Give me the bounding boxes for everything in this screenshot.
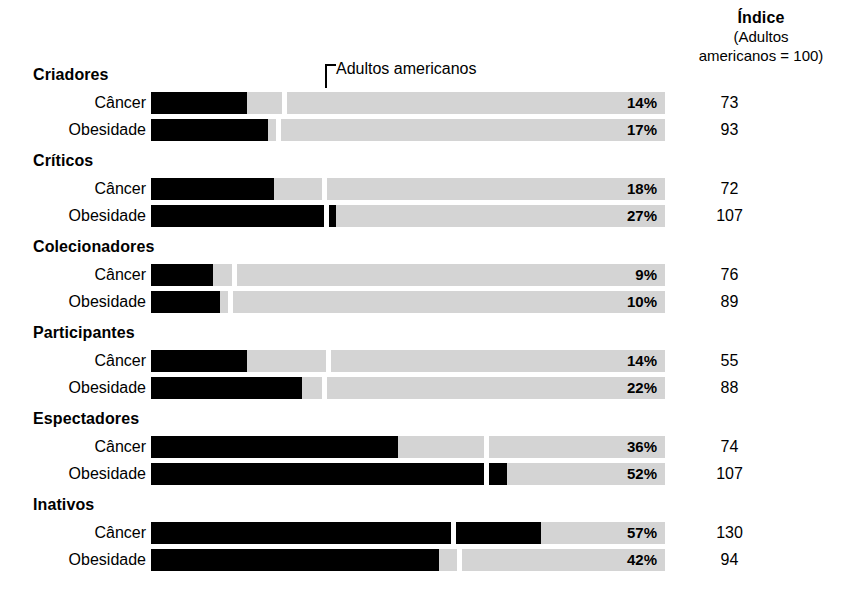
row-label: Obesidade — [0, 377, 146, 399]
percent-label: 17% — [627, 119, 657, 141]
index-value: 107 — [672, 205, 787, 227]
index-value: 74 — [672, 436, 787, 458]
group-heading: Espectadores — [33, 410, 139, 428]
chart-row: Obesidade22%88 — [0, 377, 850, 399]
bar-fill — [151, 377, 302, 399]
bar-track: 22% — [151, 377, 665, 399]
bar-fill — [151, 264, 213, 286]
reference-gap — [484, 436, 489, 458]
row-label: Câncer — [0, 436, 146, 458]
reference-gap — [282, 92, 287, 114]
bar-fill — [151, 119, 268, 141]
index-value: 55 — [672, 350, 787, 372]
bar-fill — [151, 549, 439, 571]
bar-track: 52% — [151, 463, 665, 485]
group-heading: Criadores — [33, 66, 109, 84]
bar-track: 17% — [151, 119, 665, 141]
bar-track: 42% — [151, 549, 665, 571]
percent-label: 57% — [627, 522, 657, 544]
chart-row: Câncer18%72 — [0, 178, 850, 200]
row-label: Obesidade — [0, 463, 146, 485]
percent-label: 36% — [627, 436, 657, 458]
bar-fill — [151, 350, 247, 372]
bar-fill — [151, 205, 336, 227]
bar-track: 36% — [151, 436, 665, 458]
bar-track: 14% — [151, 350, 665, 372]
row-label: Obesidade — [0, 119, 146, 141]
chart-row: Obesidade17%93 — [0, 119, 850, 141]
group-heading: Inativos — [33, 496, 94, 514]
bar-fill — [151, 522, 541, 544]
index-value: 94 — [672, 549, 787, 571]
index-value: 88 — [672, 377, 787, 399]
group-heading: Críticos — [33, 152, 93, 170]
reference-bracket-icon — [325, 64, 336, 88]
index-value: 89 — [672, 291, 787, 313]
reference-gap — [484, 463, 489, 485]
group-heading: Participantes — [33, 324, 135, 342]
chart-row: Obesidade10%89 — [0, 291, 850, 313]
reference-gap — [326, 350, 331, 372]
chart-row: Obesidade52%107 — [0, 463, 850, 485]
chart-row: Câncer14%73 — [0, 92, 850, 114]
chart-row: Obesidade42%94 — [0, 549, 850, 571]
reference-gap — [324, 205, 329, 227]
bar-track: 10% — [151, 291, 665, 313]
percent-label: 27% — [627, 205, 657, 227]
chart-row: Câncer9%76 — [0, 264, 850, 286]
reference-gap — [457, 549, 462, 571]
bar-track: 18% — [151, 178, 665, 200]
reference-marker-label: Adultos americanos — [336, 60, 477, 78]
reference-gap — [276, 119, 281, 141]
reference-gap — [228, 291, 233, 313]
percent-label: 18% — [627, 178, 657, 200]
bar-track: 27% — [151, 205, 665, 227]
percent-label: 52% — [627, 463, 657, 485]
reference-gap — [451, 522, 456, 544]
row-label: Câncer — [0, 264, 146, 286]
row-label: Obesidade — [0, 549, 146, 571]
chart-row: Obesidade27%107 — [0, 205, 850, 227]
bar-fill — [151, 291, 220, 313]
index-column-header: Índice (Adultos americanos = 100) — [672, 8, 850, 65]
percent-label: 14% — [627, 92, 657, 114]
index-value: 76 — [672, 264, 787, 286]
index-bar-chart: Índice (Adultos americanos = 100) Adulto… — [0, 0, 850, 594]
row-label: Obesidade — [0, 205, 146, 227]
row-label: Câncer — [0, 92, 146, 114]
bar-fill — [151, 463, 507, 485]
percent-label: 14% — [627, 350, 657, 372]
bar-fill — [151, 178, 274, 200]
percent-label: 42% — [627, 549, 657, 571]
percent-label: 9% — [635, 264, 657, 286]
chart-row: Câncer57%130 — [0, 522, 850, 544]
index-header-title: Índice — [672, 8, 850, 27]
reference-gap — [232, 264, 237, 286]
percent-label: 10% — [627, 291, 657, 313]
index-value: 73 — [672, 92, 787, 114]
group-heading: Colecionadores — [33, 238, 154, 256]
bar-track: 57% — [151, 522, 665, 544]
index-header-subtitle-line2: americanos = 100) — [672, 46, 850, 65]
row-label: Câncer — [0, 178, 146, 200]
index-header-subtitle-line1: (Adultos — [672, 27, 850, 46]
index-value: 107 — [672, 463, 787, 485]
percent-label: 22% — [627, 377, 657, 399]
row-label: Câncer — [0, 350, 146, 372]
reference-gap — [322, 178, 327, 200]
index-value: 72 — [672, 178, 787, 200]
chart-row: Câncer14%55 — [0, 350, 850, 372]
bar-track: 9% — [151, 264, 665, 286]
row-label: Câncer — [0, 522, 146, 544]
bar-track: 14% — [151, 92, 665, 114]
index-value: 93 — [672, 119, 787, 141]
chart-row: Câncer36%74 — [0, 436, 850, 458]
index-value: 130 — [672, 522, 787, 544]
bar-fill — [151, 92, 247, 114]
row-label: Obesidade — [0, 291, 146, 313]
bar-fill — [151, 436, 398, 458]
reference-gap — [322, 377, 327, 399]
